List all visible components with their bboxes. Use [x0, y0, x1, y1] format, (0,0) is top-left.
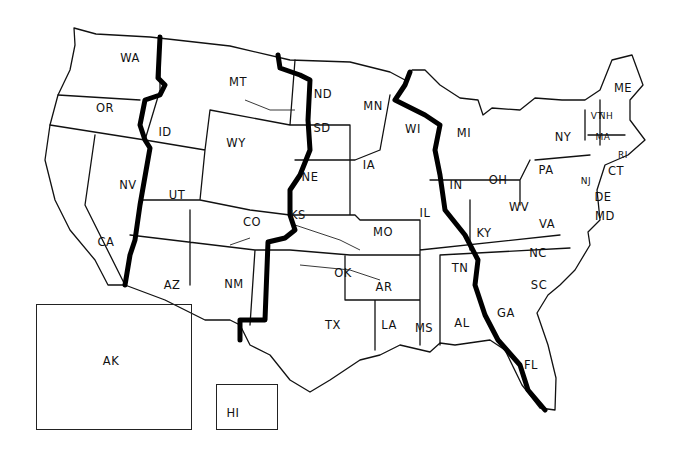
state-label-wa: WA — [120, 51, 140, 65]
state-label-ky: KY — [476, 226, 491, 240]
state-label-sd: SD — [313, 121, 330, 135]
state-label-ks: KS — [290, 208, 306, 222]
state-label-fl: FL — [524, 358, 538, 372]
state-label-sc: SC — [531, 278, 547, 292]
state-label-ny: NY — [555, 130, 572, 144]
state-label-ri: RI — [618, 150, 628, 160]
pacific-mountain-boundary — [125, 37, 165, 285]
state-label-nj: NJ — [581, 176, 591, 186]
state-label-pa: PA — [538, 163, 553, 177]
state-label-co: CO — [243, 215, 261, 229]
state-label-la: LA — [381, 318, 397, 332]
state-label-mi: MI — [457, 126, 471, 140]
state-label-ak: AK — [103, 354, 119, 368]
state-label-tn: TN — [452, 261, 469, 275]
state-label-or: OR — [96, 101, 114, 115]
state-label-ok: OK — [334, 266, 352, 280]
state-label-ar: AR — [376, 280, 393, 294]
state-label-de: DE — [594, 190, 611, 204]
state-label-nv: NV — [119, 178, 136, 192]
state-label-az: AZ — [164, 278, 181, 292]
state-label-in: IN — [450, 178, 463, 192]
state-label-id: ID — [158, 125, 171, 139]
state-label-wi: WI — [405, 122, 421, 136]
state-label-ma: MA — [596, 132, 611, 142]
state-label-nh: NH — [599, 111, 614, 121]
state-label-ia: IA — [363, 158, 375, 172]
hawaii-inset — [216, 384, 278, 430]
state-label-wy: WY — [226, 136, 245, 150]
state-label-hi: HI — [226, 406, 239, 420]
state-label-tx: TX — [325, 318, 341, 332]
state-label-ms: MS — [415, 321, 433, 335]
state-label-ga: GA — [497, 306, 515, 320]
state-label-me: ME — [614, 81, 632, 95]
state-label-oh: OH — [489, 173, 508, 187]
state-label-ct: CT — [608, 164, 624, 178]
mountain-central-boundary — [240, 55, 310, 340]
state-label-il: IL — [420, 206, 431, 220]
state-label-nm: NM — [224, 277, 244, 291]
state-label-ne: NE — [302, 170, 319, 184]
state-label-ut: UT — [169, 188, 185, 202]
state-label-nc: NC — [529, 246, 547, 260]
state-label-al: AL — [454, 316, 469, 330]
state-label-mn: MN — [363, 99, 383, 113]
state-label-ca: CA — [98, 235, 115, 249]
state-label-wv: WV — [509, 200, 529, 214]
state-label-nd: ND — [314, 87, 332, 101]
state-label-mt: MT — [229, 75, 247, 89]
state-label-va: VA — [539, 217, 555, 231]
state-label-md: MD — [595, 209, 615, 223]
state-label-mo: MO — [373, 225, 393, 239]
